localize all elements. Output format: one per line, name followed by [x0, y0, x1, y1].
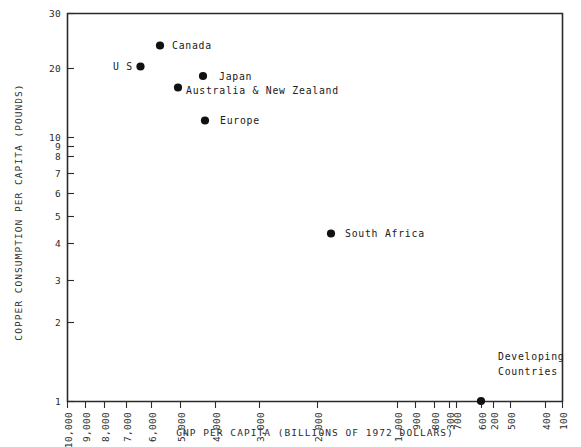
y-ticklabel-10: 10	[49, 132, 61, 143]
data-point-south-africa[interactable]	[327, 229, 335, 237]
data-point-canada[interactable]	[156, 41, 164, 49]
data-label-australia-new-zealand: Australia & New Zealand	[186, 85, 339, 96]
y-ticklabel-7: 7	[55, 168, 61, 179]
data-label-europe: Europe	[220, 115, 260, 126]
x-ticklabel-10000: 10,000	[63, 412, 74, 447]
data-point-japan[interactable]	[199, 72, 207, 80]
y-ticklabel-2: 2	[55, 317, 61, 328]
data-label-canada: Canada	[172, 40, 212, 51]
y-ticklabel-1: 1	[55, 396, 61, 407]
y-axis-title: COPPER CONSUMPTION PER CAPITA (POUNDS)	[13, 83, 24, 340]
y-ticklabel-3: 3	[55, 275, 61, 286]
data-point-europe[interactable]	[201, 116, 209, 124]
data-point-australia-new-zealand[interactable]	[174, 83, 182, 91]
data-point-developing-countries[interactable]	[477, 397, 485, 405]
annotation-line-1: Developing	[498, 351, 564, 362]
data-label-us: U S	[113, 61, 133, 72]
x-ticklabel-500: 500	[506, 412, 517, 430]
x-ticklabel-9000: 9,000	[81, 412, 92, 442]
x-ticklabel-6000: 6,000	[147, 412, 158, 442]
y-ticklabel-20: 20	[49, 63, 61, 74]
x-ticklabel-400: 400	[541, 412, 552, 430]
x-ticklabel-200: 200	[489, 412, 500, 430]
x-ticklabel-100: 100	[558, 412, 569, 430]
y-ticklabel-8: 8	[55, 151, 61, 162]
x-axis-title: GNP PER CAPITA (BILLIONS OF 1972 DOLLARS…	[176, 427, 454, 438]
data-label-japan: Japan	[219, 71, 252, 82]
y-ticklabel-4: 4	[55, 238, 61, 249]
annotation-line-2: Countries	[498, 366, 558, 377]
y-ticklabel-6: 6	[55, 188, 61, 199]
x-ticklabel-7000: 7,000	[122, 412, 133, 442]
x-ticklabel-8000: 8,000	[100, 412, 111, 442]
scatter-chart-figure: 1 2 3 4 5 6 7 8 9 10 20 30	[0, 0, 581, 447]
chart-background	[0, 0, 581, 447]
data-label-south-africa: South Africa	[345, 228, 425, 239]
data-point-us[interactable]	[136, 62, 144, 70]
y-ticklabel-30: 30	[49, 8, 61, 19]
x-ticklabel-600: 600	[477, 412, 488, 430]
chart-svg: 1 2 3 4 5 6 7 8 9 10 20 30	[0, 0, 581, 447]
y-ticklabel-5: 5	[55, 211, 61, 222]
